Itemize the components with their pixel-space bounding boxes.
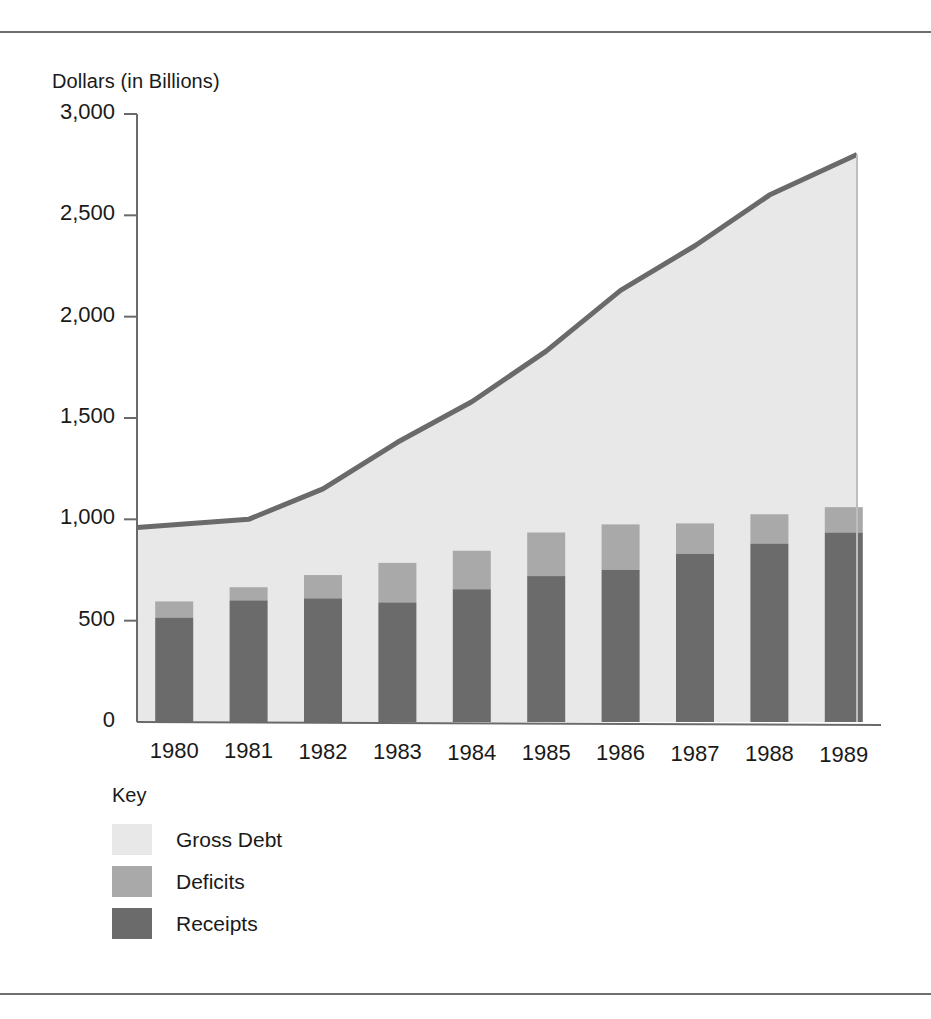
legend-item: Receipts xyxy=(112,902,282,944)
legend-title: Key xyxy=(112,784,282,806)
legend-rows: Gross DebtDeficitsReceipts xyxy=(112,818,282,944)
legend-swatch xyxy=(112,824,152,855)
legend-item-label: Gross Debt xyxy=(176,829,282,850)
legend-item-label: Receipts xyxy=(176,913,258,934)
legend-item: Gross Debt xyxy=(112,818,282,860)
figure-container: Dollars (in Billions) 05001,0001,5002,00… xyxy=(0,0,931,1019)
legend-item-label: Deficits xyxy=(176,871,245,892)
x-tick-label: 1989 xyxy=(799,742,889,768)
chart-legend: Key Gross DebtDeficitsReceipts xyxy=(112,784,282,944)
legend-swatch xyxy=(112,908,152,939)
legend-swatch xyxy=(112,866,152,897)
legend-item: Deficits xyxy=(112,860,282,902)
